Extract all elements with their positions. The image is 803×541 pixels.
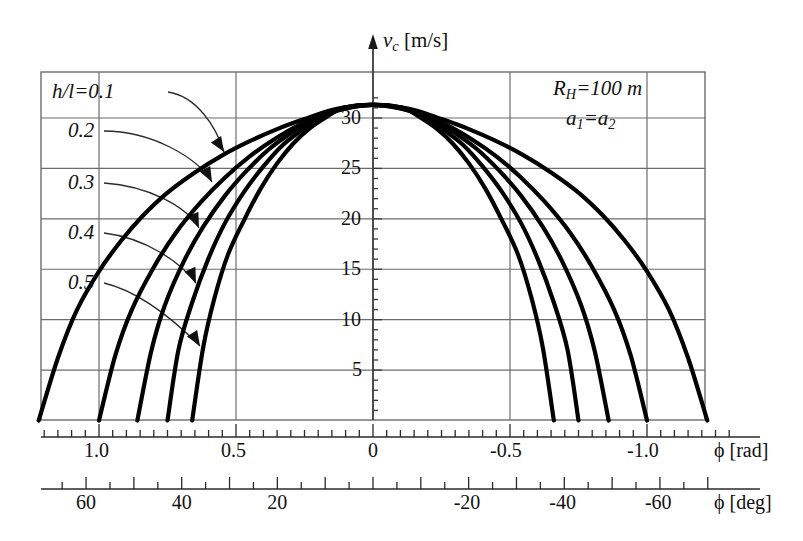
x-tick-label-rad-0.5: 0.5	[221, 440, 246, 460]
leader-arrowhead-4	[187, 330, 200, 346]
y-tick-label-10: 10	[341, 309, 361, 329]
legend-item-4: 0.5	[68, 272, 94, 293]
x-tick-label-rad-0: 0	[368, 440, 378, 460]
legend-item-3: 0.4	[68, 222, 94, 243]
x-tick-label-deg-40: 40	[172, 492, 192, 512]
y-axis-ticks	[373, 98, 382, 411]
chart-figure: vc [m/s] RH=100 m a1=a2 h/l=0.1 0.2 0.3 …	[0, 0, 803, 541]
annotation-accel: a1=a2	[566, 108, 615, 131]
y-tick-label-30: 30	[341, 107, 361, 127]
x-axis-deg-title: ϕ [deg]	[714, 492, 772, 512]
x-tick-label-deg--20: -20	[454, 492, 481, 512]
annotation-radius: RH=100 m	[553, 78, 642, 101]
plot-canvas	[0, 0, 803, 541]
y-axis	[368, 34, 378, 420]
x-tick-label-deg--60: -60	[645, 492, 672, 512]
legend-item-0: h/l=0.1	[52, 81, 115, 102]
x-tick-label-rad--1.0: -1.0	[627, 440, 659, 460]
x-tick-label-deg-60: 60	[76, 492, 96, 512]
x-axis-deg-ticks	[62, 477, 708, 489]
leader-line-4	[104, 283, 200, 346]
legend-item-1: 0.2	[68, 120, 94, 141]
y-axis-title: vc [m/s]	[383, 30, 448, 53]
x-tick-label-deg-20: 20	[267, 492, 287, 512]
leader-arrowhead-0	[211, 136, 224, 152]
y-tick-label-5: 5	[352, 359, 362, 379]
y-tick-label-20: 20	[341, 208, 361, 228]
y-tick-label-25: 25	[341, 157, 361, 177]
x-axis-rad-ticks	[44, 424, 729, 437]
y-tick-label-15: 15	[341, 258, 361, 278]
x-axis-rad-title: ϕ [rad]	[714, 440, 768, 460]
x-tick-label-rad--0.5: -0.5	[490, 440, 522, 460]
x-tick-label-deg--40: -40	[549, 492, 576, 512]
legend-item-2: 0.3	[68, 172, 94, 193]
x-tick-label-rad-1.0: 1.0	[84, 440, 109, 460]
